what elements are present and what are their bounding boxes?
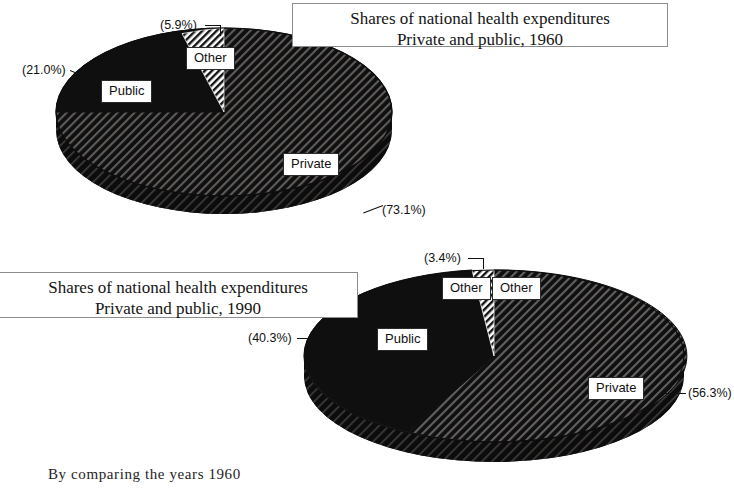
slice-label-1960-other: Other	[186, 47, 235, 70]
callout-1960-public: (21.0%)	[22, 63, 66, 77]
leader-line-1990-public	[297, 338, 317, 339]
slice-label-1990-private: Private	[588, 377, 644, 400]
callout-1990-public: (40.3%)	[248, 331, 292, 345]
callout-1990-other: (3.4%)	[424, 251, 461, 265]
chart-title-1960-line2: Private and public, 1960	[293, 29, 667, 50]
leader-line-1990-private	[664, 393, 686, 394]
leader-line-1960-other-v	[220, 25, 221, 36]
slice-label-1990-public: Public	[377, 328, 428, 351]
slice-label-1990-other-b: Other	[492, 277, 541, 300]
chart-title-1960: Shares of national health expenditures P…	[292, 3, 668, 47]
chart-title-1990: Shares of national health expenditures P…	[0, 272, 358, 318]
callout-1990-private: (56.3%)	[688, 386, 732, 400]
callout-1960-other: (5.9%)	[160, 18, 197, 32]
page-caption: By comparing the years 1960	[48, 466, 241, 483]
chart-title-1960-line1: Shares of national health expenditures	[293, 8, 667, 29]
slice-label-1990-other-a: Other	[442, 277, 491, 300]
leader-line-1990-other-v	[483, 258, 484, 269]
leader-line-1990-other-h	[468, 258, 484, 259]
chart-title-1990-line2: Private and public, 1990	[0, 298, 357, 319]
leader-line-1960-other-h	[205, 25, 221, 26]
slice-label-1960-private: Private	[283, 153, 339, 176]
chart-title-1990-line1: Shares of national health expenditures	[0, 277, 357, 298]
chart-page: Shares of national health expenditures P…	[0, 0, 734, 491]
slice-label-1960-public: Public	[101, 80, 152, 103]
callout-1960-private: (73.1%)	[382, 203, 426, 217]
